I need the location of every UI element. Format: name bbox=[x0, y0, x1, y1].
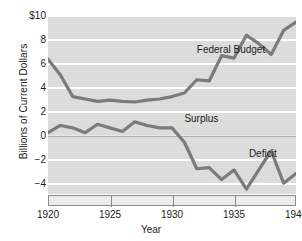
y-tick-label: −2 bbox=[2, 155, 46, 165]
x-axis-title: Year bbox=[0, 224, 302, 235]
line-federal-budget bbox=[48, 22, 296, 102]
x-axis-bar bbox=[48, 195, 296, 206]
annotation-deficit: Deficit bbox=[249, 148, 277, 159]
annotation-federal-budget: Federal Budget bbox=[197, 44, 265, 55]
annotation-surplus: Surplus bbox=[184, 113, 218, 124]
x-tick-label: 1930 bbox=[147, 209, 197, 220]
y-tick-label: $10 bbox=[2, 11, 46, 21]
x-tick-label: 1925 bbox=[85, 209, 135, 220]
y-tick-label: −4 bbox=[2, 179, 46, 189]
x-tick-label: 1935 bbox=[209, 209, 259, 220]
y-tick-label: 6 bbox=[2, 59, 46, 69]
x-tick-mark bbox=[173, 196, 174, 207]
y-tick-label: 8 bbox=[2, 35, 46, 45]
federal-budget-chart: Billions of Current Dollars $1086420−2−4… bbox=[0, 0, 302, 241]
x-tick-label: 1940 bbox=[271, 209, 302, 220]
y-tick-label: 2 bbox=[2, 107, 46, 117]
x-tick-mark bbox=[235, 196, 236, 207]
y-tick-label: 4 bbox=[2, 83, 46, 93]
y-tick-label: 0 bbox=[2, 131, 46, 141]
x-tick-label: 1920 bbox=[23, 209, 73, 220]
x-tick-mark bbox=[111, 196, 112, 207]
